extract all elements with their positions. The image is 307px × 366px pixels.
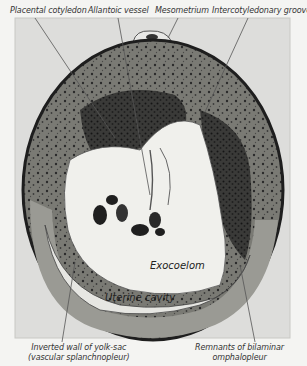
label-line-1: Inverted wall of yolk-sac [28, 343, 129, 353]
label-inverted-wall-yolk-sac: Inverted wall of yolk-sac (vascular spla… [28, 343, 129, 363]
label-uterine-cavity: Uterine cavity [105, 292, 175, 303]
label-intercotyledonary-groove: Intercotyledonary groove [212, 6, 307, 15]
label-remnants-bilaminar-omphalopleur: Remnants of bilaminar omphalopleur [195, 343, 284, 363]
label-line-1: Remnants of bilaminar [195, 343, 284, 353]
label-mesometrium: Mesometrium [155, 6, 209, 15]
label-line-2: (vascular splanchnopleur) [28, 353, 129, 363]
histology-figure [0, 0, 307, 366]
label-placental-cotyledon: Placental cotyledon [10, 6, 87, 15]
label-allantoic-vessel: Allantoic vessel [88, 6, 149, 15]
label-line-2: omphalopleur [195, 353, 284, 363]
label-exocoelom: Exocoelom [150, 260, 205, 271]
